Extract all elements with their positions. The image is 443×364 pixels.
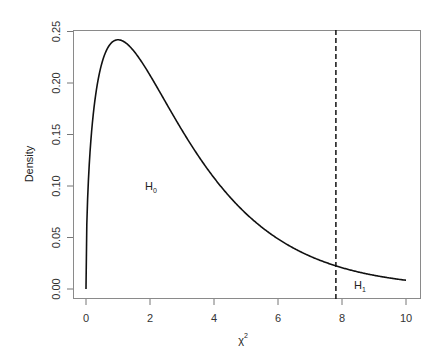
- x-tick-labels: 0 2 4 6 8 10: [83, 312, 412, 324]
- y-tick-label: 0.10: [50, 175, 62, 196]
- y-axis: [67, 32, 73, 290]
- x-axis-title: χ2: [238, 332, 248, 346]
- x-axis-title-superscript: 2: [244, 332, 248, 339]
- h1-label: H1: [354, 279, 366, 293]
- x-tick-label: 0: [83, 312, 89, 324]
- plot-box: [74, 31, 421, 299]
- h1-label-subscript: 1: [362, 286, 366, 293]
- h1-label-main: H: [354, 279, 362, 291]
- h0-label-subscript: 0: [153, 187, 157, 194]
- chi-square-density-chart: 0.00 0.05 0.10 0.15 0.20 0.25 0 2 4 6 8 …: [0, 0, 443, 364]
- x-tick-label: 2: [147, 312, 153, 324]
- x-tick-label: 4: [211, 312, 217, 324]
- x-tick-label: 6: [275, 312, 281, 324]
- y-tick-labels: 0.00 0.05 0.10 0.15 0.20 0.25: [50, 21, 62, 300]
- y-tick-label: 0.25: [50, 21, 62, 42]
- y-axis-title: Density: [23, 145, 35, 182]
- y-tick-label: 0.05: [50, 227, 62, 248]
- y-tick-label: 0.15: [50, 124, 62, 145]
- y-tick-label: 0.20: [50, 72, 62, 93]
- x-tick-label: 8: [339, 312, 345, 324]
- density-curve: [86, 40, 406, 289]
- h0-label-main: H: [145, 180, 153, 192]
- y-tick-label: 0.00: [50, 278, 62, 299]
- x-axis: [86, 299, 406, 305]
- h0-label: H0: [145, 180, 157, 194]
- x-tick-label: 10: [400, 312, 412, 324]
